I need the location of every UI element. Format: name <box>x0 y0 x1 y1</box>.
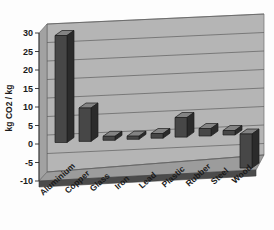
bar-steel-face <box>223 131 235 136</box>
bar-glass-face <box>103 136 115 140</box>
bar-copper-side <box>91 103 98 141</box>
ytick-label-8: -10 <box>20 176 33 186</box>
ytick-label-0: 30 <box>23 28 33 38</box>
chart-canvas: 30 25 20 15 10 5 0 -5 -10 kg CO2 / kg <box>0 0 274 230</box>
bar-copper-face <box>79 108 91 141</box>
bar-lead-face <box>151 134 163 139</box>
y-axis <box>35 33 39 181</box>
ytick-label-5: 5 <box>28 121 33 131</box>
y-tick-labels: 30 25 20 15 10 5 0 -5 -10 <box>20 28 33 186</box>
ytick-label-2: 20 <box>23 65 33 75</box>
ytick-label-6: 0 <box>28 139 33 149</box>
ytick-label-4: 10 <box>23 102 33 112</box>
y-axis-title: kg CO2 / kg <box>4 85 14 132</box>
ytick-label-3: 15 <box>23 84 33 94</box>
bar-wood-side <box>252 129 259 168</box>
bar-copper[interactable] <box>79 103 98 141</box>
bar-wood[interactable] <box>240 129 259 168</box>
left-wall <box>39 24 47 181</box>
ytick-label-7: -5 <box>25 158 33 168</box>
bar-plastic[interactable] <box>175 113 194 138</box>
bar-chart-figure: 30 25 20 15 10 5 0 -5 -10 kg CO2 / kg <box>0 0 274 230</box>
bar-iron-face <box>127 136 139 139</box>
bar-aluminium[interactable] <box>55 31 74 143</box>
bar-rubber-face <box>199 129 211 137</box>
ytick-label-1: 25 <box>23 47 33 57</box>
bar-aluminium-side <box>67 31 74 143</box>
bar-plastic-face <box>175 118 187 138</box>
bar-aluminium-face <box>55 36 67 143</box>
